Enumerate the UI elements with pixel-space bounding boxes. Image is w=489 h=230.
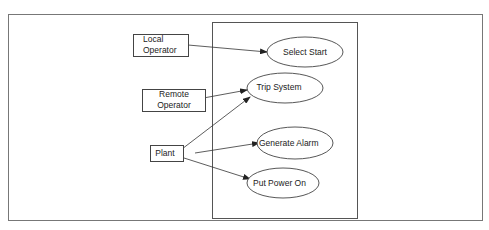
use-case-trip-system-label: Trip System [249, 82, 309, 93]
association-plant-generate-alarm [195, 143, 259, 153]
actor-local-operator-label-line1: Local [143, 34, 163, 45]
use-case-generate-alarm-label: Generate Alarm [259, 138, 329, 149]
actor-remote-operator-label-line1: Remote [142, 89, 206, 100]
association-local-operator-select-start [188, 45, 267, 52]
actor-remote-operator-label-line2: Operator [142, 100, 206, 111]
actor-plant-label: Plant [150, 148, 180, 159]
use-case-put-power-on-label: Put Power On [253, 178, 313, 189]
actor-local-operator-label-line2: Operator [143, 45, 177, 56]
outer-frame [9, 15, 483, 221]
use-case-diagram-canvas [0, 0, 489, 230]
association-plant-put-power-on [184, 158, 250, 179]
use-case-select-start-label: Select Start [267, 47, 343, 58]
